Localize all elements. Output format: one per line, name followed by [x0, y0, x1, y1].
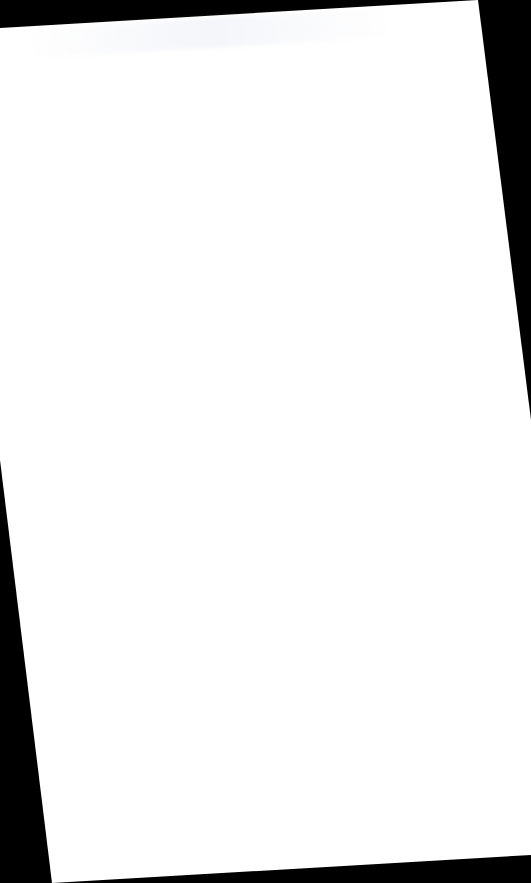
page-sheet — [0, 0, 531, 883]
blank-page — [0, 0, 531, 883]
scan-background — [0, 0, 531, 883]
